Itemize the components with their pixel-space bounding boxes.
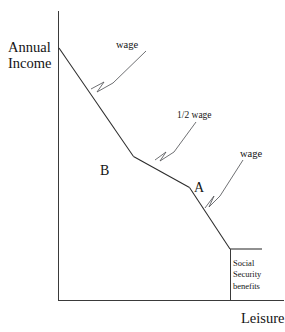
y-axis-label: Annual Income	[8, 39, 51, 71]
pointer-wage-lower	[220, 160, 243, 196]
pointer-lines-group	[91, 51, 243, 208]
x-axis-label: Leisure	[241, 310, 284, 326]
slope-label-wage-lower: wage	[240, 148, 262, 160]
budget-constraint-figure: Annual Income Leisure B A wage 1/2 wage …	[0, 0, 285, 332]
pointer-wage-upper	[113, 51, 146, 83]
pointer-half-wage	[174, 122, 196, 152]
pointer-zigzag-wage-lower	[205, 196, 220, 208]
budget-constraint-line	[59, 48, 262, 300]
point-label-a: A	[194, 180, 204, 196]
segment-wage-upper	[59, 48, 134, 157]
slope-label-half-wage: 1/2 wage	[177, 110, 212, 121]
pointer-zigzag-half-wage	[155, 152, 174, 161]
pointer-zigzag-wage-upper	[91, 82, 113, 92]
slope-label-wage-upper: wage	[116, 39, 138, 51]
point-label-b: B	[100, 163, 109, 179]
segment-wage-lower	[190, 188, 231, 250]
social-security-benefits-label: Social Security benefits	[233, 258, 261, 292]
segment-half-wage	[134, 157, 190, 188]
